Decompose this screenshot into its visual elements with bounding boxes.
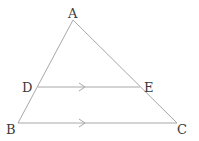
label-c: C: [177, 122, 187, 137]
label-a: A: [67, 6, 78, 21]
triangle-diagram: A D E B C: [0, 0, 199, 141]
label-b: B: [6, 122, 16, 137]
segment-ab: [18, 20, 73, 123]
label-e: E: [144, 80, 154, 95]
label-d: D: [22, 80, 32, 95]
segment-ac: [73, 20, 177, 123]
